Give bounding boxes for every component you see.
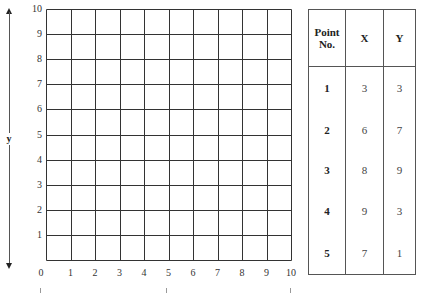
y-tick-label: 8 — [28, 54, 42, 64]
y-tick-label: 10 — [28, 4, 42, 14]
y-tick-label: 5 — [28, 130, 42, 140]
arrow-down-icon — [6, 263, 12, 269]
coordinate-grid — [46, 9, 292, 261]
cell-point: 2 — [309, 109, 346, 150]
x-tick-label: 4 — [136, 268, 152, 278]
table-row: 3 8 9 — [309, 150, 416, 191]
cell-y: 3 — [384, 191, 416, 232]
x-tick-label: 7 — [210, 268, 226, 278]
table-row: 1 3 3 — [309, 67, 416, 110]
header-point-line2: No. — [319, 38, 335, 50]
y-tick-label: 3 — [28, 180, 42, 190]
cell-point: 4 — [309, 191, 346, 232]
header-point-no: Point No. — [309, 10, 346, 67]
table-row: 2 6 7 — [309, 109, 416, 150]
x-tick-label: 6 — [185, 268, 201, 278]
y-tick-label: 2 — [28, 205, 42, 215]
y-tick-label: 4 — [28, 155, 42, 165]
y-axis-label: y — [4, 133, 14, 145]
cell-y: 9 — [384, 150, 416, 191]
cell-x: 7 — [346, 232, 384, 275]
cell-y: 1 — [384, 232, 416, 275]
x-tick-label: 1 — [63, 268, 79, 278]
x-tick-label: 5 — [161, 268, 177, 278]
y-tick-label: 6 — [28, 104, 42, 114]
y-tick-label: 7 — [28, 79, 42, 89]
header-x: X — [346, 10, 384, 67]
cell-x: 6 — [346, 109, 384, 150]
cell-x: 9 — [346, 191, 384, 232]
x-tick-label: 3 — [112, 268, 128, 278]
cell-x: 8 — [346, 150, 384, 191]
cell-x: 3 — [346, 67, 384, 110]
x-tick-label: 9 — [259, 268, 275, 278]
header-y: Y — [384, 10, 416, 67]
points-table: Point No. X Y 1 3 3 2 6 7 3 8 9 4 9 3 5 — [308, 9, 416, 275]
cell-point: 3 — [309, 150, 346, 191]
table-row: 4 9 3 — [309, 191, 416, 232]
cell-point: 5 — [309, 232, 346, 275]
header-point-line1: Point — [314, 26, 339, 38]
x-tick-label: 0 — [33, 268, 49, 278]
cell-y: 7 — [384, 109, 416, 150]
cell-y: 3 — [384, 67, 416, 110]
x-tick-label: 8 — [234, 268, 250, 278]
table-row: 5 7 1 — [309, 232, 416, 275]
y-tick-label: 1 — [28, 230, 42, 240]
x-axis-arrow-cutoff — [0, 288, 300, 293]
table-header-row: Point No. X Y — [309, 10, 416, 67]
y-tick-label: 9 — [28, 29, 42, 39]
x-tick-label: 10 — [283, 268, 299, 278]
cell-point: 1 — [309, 67, 346, 110]
x-tick-label: 2 — [87, 268, 103, 278]
